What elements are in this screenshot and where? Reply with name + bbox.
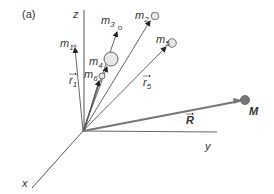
- r1-label: r1: [69, 73, 77, 89]
- r5-label: r5: [143, 75, 152, 91]
- z-axis-label: z: [72, 8, 79, 20]
- R-vector: [83, 101, 240, 131]
- x-axis-label: x: [21, 177, 28, 189]
- R-label: R: [186, 113, 194, 126]
- mass-m1-point: [74, 45, 76, 47]
- m2-label: m2: [135, 9, 149, 24]
- mass-m4: [104, 52, 118, 66]
- m5-label: m5: [156, 33, 170, 48]
- center-of-mass-diagram: (a) z y x m1 m2 m3 m4 m5 m6 r1 r5 R M: [0, 0, 274, 194]
- y-axis-label: y: [204, 140, 212, 152]
- mass-m3: [118, 26, 122, 30]
- r1-vector: [75, 48, 83, 131]
- r6-vector: [84, 81, 99, 131]
- svg-text:r5: r5: [143, 76, 152, 91]
- m6-label: m6: [84, 68, 98, 83]
- mass-m6: [99, 73, 105, 79]
- y-axis: [83, 131, 217, 132]
- panel-label: (a): [22, 8, 35, 20]
- mass-M: [241, 96, 250, 105]
- M-label: M: [249, 105, 259, 117]
- m3-label: m3: [101, 14, 115, 29]
- x-axis: [32, 131, 83, 188]
- diagram-canvas: (a) z y x m1 m2 m3 m4 m5 m6 r1 r5 R M: [0, 0, 274, 194]
- m1-label: m1: [60, 37, 74, 52]
- svg-text:r1: r1: [69, 74, 77, 89]
- mass-m2: [151, 12, 159, 20]
- svg-text:R: R: [186, 114, 194, 126]
